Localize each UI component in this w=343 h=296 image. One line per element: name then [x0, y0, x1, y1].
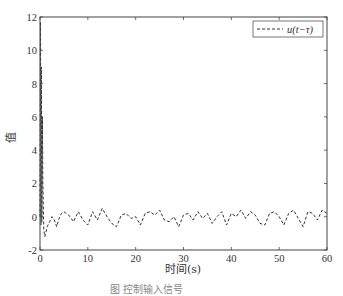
x-tick-label: 10	[83, 253, 94, 264]
x-tick-label: 40	[226, 253, 237, 264]
y-tick-label: 12	[27, 12, 38, 23]
x-axis-label: 时间(s)	[165, 263, 201, 276]
y-tick-label: 10	[27, 45, 38, 56]
y-tick-label: 2	[32, 178, 37, 189]
x-tick-label: 50	[274, 253, 285, 264]
plot-area	[40, 22, 327, 237]
legend-entry-label: u(t−τ)	[287, 24, 314, 36]
y-tick-label: 0	[32, 212, 37, 223]
figure-caption: 图 控制输入信号	[110, 281, 183, 296]
x-tick-label: 20	[130, 253, 141, 264]
y-tick-label: 8	[32, 79, 37, 90]
y-tick-label: 6	[32, 112, 37, 123]
series-line-0	[40, 22, 327, 237]
x-tick-label: 0	[37, 253, 42, 264]
x-tick-label: 60	[322, 253, 333, 264]
y-tick-label: -2	[28, 245, 37, 256]
legend: u(t−τ)	[253, 21, 323, 37]
y-axis-label: 值	[5, 132, 18, 143]
y-tick-label: 4	[32, 145, 38, 156]
